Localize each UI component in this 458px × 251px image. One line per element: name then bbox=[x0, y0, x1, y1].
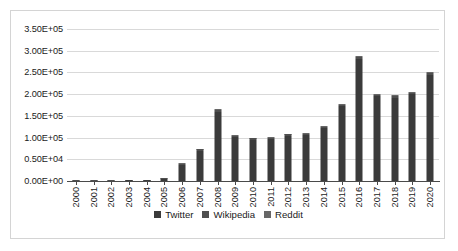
x-axis-tick-label: 2001 bbox=[89, 187, 99, 207]
legend-swatch-icon bbox=[202, 211, 209, 218]
legend-swatch-icon bbox=[264, 211, 271, 218]
bar-segment-twitter bbox=[409, 94, 416, 181]
y-axis-tick-label: 0.50E+04 bbox=[24, 154, 63, 164]
bar-segment-twitter bbox=[196, 151, 203, 181]
bar-slot bbox=[404, 29, 422, 181]
bar-stack[interactable] bbox=[267, 137, 274, 181]
legend-item-reddit[interactable]: Reddit bbox=[264, 209, 303, 220]
x-axis-tick-label: 2017 bbox=[372, 187, 382, 207]
y-axis-tick-label: 0.00E+00 bbox=[24, 176, 63, 186]
bar-slot bbox=[120, 29, 138, 181]
x-axis-tick-label: 2009 bbox=[230, 187, 240, 207]
x-axis-tick bbox=[218, 181, 219, 185]
bar-segment-twitter bbox=[267, 139, 274, 181]
x-axis-tick bbox=[395, 181, 396, 185]
x-axis-tick bbox=[129, 181, 130, 185]
x-axis-tick-label: 2014 bbox=[319, 187, 329, 207]
chart-frame: 0.00E+000.50E+041.00E+051.50E+052.00E+05… bbox=[10, 10, 445, 239]
bar-stack[interactable] bbox=[285, 134, 292, 181]
bar-slot bbox=[244, 29, 262, 181]
x-axis-tick-label: 2005 bbox=[159, 187, 169, 207]
legend-item-wikipedia[interactable]: Wikipedia bbox=[202, 209, 255, 220]
bar-stack[interactable] bbox=[320, 126, 327, 181]
bar-slot bbox=[297, 29, 315, 181]
x-axis-tick-label: 2019 bbox=[407, 187, 417, 207]
bar-slot bbox=[333, 29, 351, 181]
bar-slot bbox=[280, 29, 298, 181]
x-axis-tick bbox=[342, 181, 343, 185]
x-axis-tick bbox=[306, 181, 307, 185]
bar-segment-twitter bbox=[391, 98, 398, 181]
x-axis-tick-label: 2008 bbox=[213, 187, 223, 207]
bar-slot bbox=[315, 29, 333, 181]
y-axis-labels: 0.00E+000.50E+041.00E+051.50E+052.00E+05… bbox=[11, 11, 63, 240]
x-axis-tick-label: 2006 bbox=[177, 187, 187, 207]
x-axis-tick-label: 2018 bbox=[390, 187, 400, 207]
bar-slot bbox=[350, 29, 368, 181]
x-axis-tick-label: 2016 bbox=[354, 187, 364, 207]
chart-legend: TwitterWikipediaReddit bbox=[11, 209, 446, 220]
x-axis-tick bbox=[182, 181, 183, 185]
plot-area bbox=[67, 29, 439, 181]
bar-stack[interactable] bbox=[356, 56, 363, 181]
x-axis-tick bbox=[164, 181, 165, 185]
bar-stack[interactable] bbox=[214, 109, 221, 181]
bar-slot bbox=[85, 29, 103, 181]
bar-stack[interactable] bbox=[232, 135, 239, 181]
y-axis-tick-label: 3.00E+05 bbox=[24, 46, 63, 56]
x-axis-tick bbox=[271, 181, 272, 185]
y-axis-tick-label: 1.50E+05 bbox=[24, 111, 63, 121]
bar-slot bbox=[173, 29, 191, 181]
x-axis-tick bbox=[111, 181, 112, 185]
x-axis-tick-label: 2007 bbox=[195, 187, 205, 207]
bar-segment-twitter bbox=[320, 128, 327, 181]
x-axis-tick-label: 2002 bbox=[106, 187, 116, 207]
legend-item-twitter[interactable]: Twitter bbox=[154, 209, 193, 220]
bar-segment-twitter bbox=[232, 137, 239, 181]
bar-stack[interactable] bbox=[179, 163, 186, 181]
y-axis-tick-label: 2.50E+05 bbox=[24, 67, 63, 77]
bar-slot bbox=[421, 29, 439, 181]
x-axis-tick-label: 2000 bbox=[71, 187, 81, 207]
x-axis-tick bbox=[359, 181, 360, 185]
bar-stack[interactable] bbox=[196, 149, 203, 181]
x-axis-tick-label: 2015 bbox=[337, 187, 347, 207]
x-axis-tick-label: 2010 bbox=[248, 187, 258, 207]
bar-stack[interactable] bbox=[373, 94, 380, 181]
bar-stack[interactable] bbox=[303, 133, 310, 181]
legend-label: Reddit bbox=[275, 209, 303, 220]
bar-slot bbox=[209, 29, 227, 181]
bar-stack[interactable] bbox=[427, 72, 434, 181]
bar-segment-twitter bbox=[285, 136, 292, 181]
bar-stack[interactable] bbox=[338, 104, 345, 181]
x-axis-tick bbox=[200, 181, 201, 185]
x-axis-tick-label: 2003 bbox=[124, 187, 134, 207]
y-axis-tick-label: 1.00E+05 bbox=[24, 133, 63, 143]
bar-segment-twitter bbox=[214, 112, 221, 181]
bar-slot bbox=[67, 29, 85, 181]
bar-slot bbox=[102, 29, 120, 181]
bar-stack[interactable] bbox=[249, 138, 256, 181]
x-axis-tick bbox=[288, 181, 289, 185]
bar-segment-twitter bbox=[249, 140, 256, 181]
bar-stack[interactable] bbox=[391, 95, 398, 181]
bar-segment-twitter bbox=[179, 165, 186, 182]
bar-slot bbox=[368, 29, 386, 181]
x-axis-tick bbox=[377, 181, 378, 185]
x-axis-tick bbox=[235, 181, 236, 185]
bar-stack[interactable] bbox=[409, 92, 416, 181]
x-axis-tick bbox=[76, 181, 77, 185]
legend-label: Wikipedia bbox=[213, 209, 255, 220]
x-axis-tick-label: 2020 bbox=[425, 187, 435, 207]
bar-slot bbox=[226, 29, 244, 181]
x-axis-tick-label: 2012 bbox=[283, 187, 293, 207]
bar-slot bbox=[138, 29, 156, 181]
x-axis-tick-label: 2013 bbox=[301, 187, 311, 207]
bar-segment-twitter bbox=[373, 96, 380, 181]
bar-segment-twitter bbox=[303, 135, 310, 181]
legend-label: Twitter bbox=[165, 209, 193, 220]
bar-segment-twitter bbox=[427, 75, 434, 181]
bar-slot bbox=[386, 29, 404, 181]
x-axis-tick bbox=[147, 181, 148, 185]
legend-swatch-icon bbox=[154, 211, 161, 218]
